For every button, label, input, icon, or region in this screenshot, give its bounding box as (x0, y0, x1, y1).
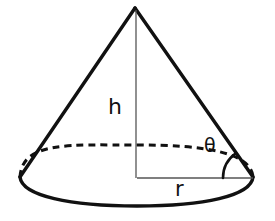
height-label: h (108, 96, 122, 118)
cone-diagram: h θ r (0, 0, 275, 221)
left-slant-edge (20, 8, 135, 177)
right-slant-edge (135, 8, 253, 177)
angle-label: θ (204, 136, 216, 155)
radius-label: r (175, 179, 184, 200)
base-front-arc (20, 177, 253, 206)
cone-figure-svg (0, 0, 275, 221)
